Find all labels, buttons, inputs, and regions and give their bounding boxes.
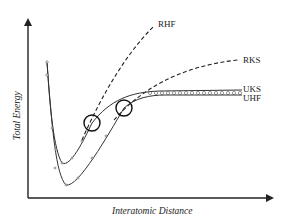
label-uhf: UHF [243,93,261,103]
y-axis-label: Total Energy [12,91,22,140]
curve-rks-uks-well [47,62,92,164]
potential-energy-diagram: RHF RKS UKS UHF Interatomic Distance Tot… [0,0,288,223]
well-markers [46,61,107,186]
asymptote-markers [148,91,241,94]
x-axis-label: Interatomic Distance [111,206,192,216]
curve-rhf [82,27,153,140]
label-rhf: RHF [158,19,176,29]
curve-uhf [124,95,242,108]
label-rks: RKS [243,55,261,65]
